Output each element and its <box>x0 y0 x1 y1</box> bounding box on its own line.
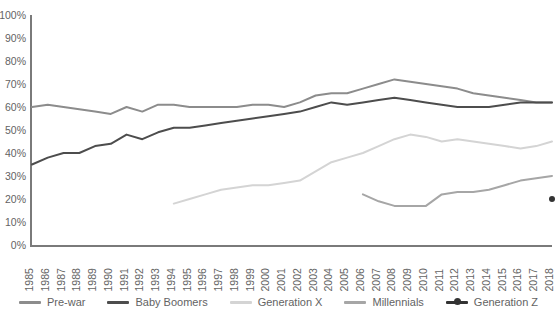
x-axis-tick-label: 1989 <box>87 268 98 291</box>
x-axis-tick-label: 2015 <box>496 268 507 291</box>
series-line <box>174 135 552 204</box>
legend-item[interactable]: Generation X <box>230 296 323 308</box>
x-axis-tick-label: 1990 <box>102 268 113 291</box>
x-axis-tick-label: 1985 <box>24 268 35 291</box>
legend-item[interactable]: Pre-war <box>19 296 86 308</box>
y-axis-tick-label: 60% <box>5 102 26 113</box>
x-axis-tick-label: 2004 <box>323 268 334 291</box>
x-axis-tick-label: 2000 <box>260 268 271 291</box>
legend-swatch-icon <box>230 297 252 308</box>
y-axis-tick-label: 20% <box>5 194 26 205</box>
legend-label: Generation X <box>258 296 323 308</box>
x-axis-tick-label: 1996 <box>197 268 208 291</box>
y-axis-tick-label: 0% <box>11 240 26 251</box>
x-axis-tick-label: 2017 <box>528 268 539 291</box>
y-axis-tick-label: 50% <box>5 125 26 136</box>
legend-swatch-icon <box>344 297 366 308</box>
x-axis-tick-label: 2005 <box>339 268 350 291</box>
y-axis-tick-label: 90% <box>5 33 26 44</box>
x-axis-tick-label: 1991 <box>118 268 129 291</box>
y-axis-tick-label: 80% <box>5 56 26 67</box>
series-line <box>363 176 552 206</box>
x-axis-tick-label: 2007 <box>370 268 381 291</box>
y-axis-tick-label: 40% <box>5 148 26 159</box>
x-axis-tick-label: 1992 <box>134 268 145 291</box>
legend-swatch-icon <box>19 297 41 308</box>
x-axis-tick-label: 1997 <box>213 268 224 291</box>
legend-swatch-icon <box>446 297 468 308</box>
x-axis-tick-label: 2001 <box>276 268 287 291</box>
x-axis-tick-label: 2002 <box>291 268 302 291</box>
x-axis-tick-label: 1987 <box>55 268 66 291</box>
x-axis-tick-label: 2003 <box>307 268 318 291</box>
x-axis-tick-label: 2013 <box>465 268 476 291</box>
x-axis-tick-label: 2014 <box>480 268 491 291</box>
x-axis-tick-label: 1999 <box>244 268 255 291</box>
y-axis-tick-label: 100% <box>0 10 26 21</box>
x-axis-tick-label: 1998 <box>228 268 239 291</box>
x-axis-tick-label: 1994 <box>165 268 176 291</box>
legend-item[interactable]: Millennials <box>344 296 423 308</box>
series-canvas <box>32 15 552 245</box>
y-axis-tick-label: 30% <box>5 171 26 182</box>
x-axis-tick-label: 2006 <box>354 268 365 291</box>
x-axis: 1985198619871988198919901991199219931994… <box>30 249 550 291</box>
legend-item[interactable]: Generation Z <box>446 296 538 308</box>
x-axis-tick-label: 2018 <box>544 268 555 291</box>
series-line <box>32 79 552 114</box>
series-line <box>32 98 552 165</box>
x-axis-tick-label: 2009 <box>402 268 413 291</box>
x-axis-tick-label: 2011 <box>433 268 444 291</box>
x-axis-tick-label: 2012 <box>449 268 460 291</box>
x-axis-tick-label: 1986 <box>39 268 50 291</box>
legend-item[interactable]: Baby Boomers <box>107 296 207 308</box>
x-axis-tick-label: 2010 <box>417 268 428 291</box>
y-axis-tick-label: 70% <box>5 79 26 90</box>
y-axis: 100%90%80%70%60%50%40%30%20%10%0% <box>0 0 30 260</box>
legend-swatch-icon <box>107 297 129 308</box>
legend-label: Generation Z <box>474 296 538 308</box>
x-axis-tick-label: 1993 <box>150 268 161 291</box>
legend-label: Pre-war <box>47 296 86 308</box>
x-axis-tick-label: 1995 <box>181 268 192 291</box>
chart-legend: Pre-warBaby BoomersGeneration XMillennia… <box>0 296 557 308</box>
x-axis-tick-label: 1988 <box>71 268 82 291</box>
legend-label: Millennials <box>372 296 423 308</box>
y-axis-tick-label: 10% <box>5 217 26 228</box>
legend-label: Baby Boomers <box>135 296 207 308</box>
generation-line-chart: 100%90%80%70%60%50%40%30%20%10%0% 198519… <box>0 0 557 325</box>
series-marker <box>549 196 555 202</box>
x-axis-tick-label: 2016 <box>512 268 523 291</box>
plot-area <box>30 15 552 247</box>
x-axis-tick-label: 2008 <box>386 268 397 291</box>
